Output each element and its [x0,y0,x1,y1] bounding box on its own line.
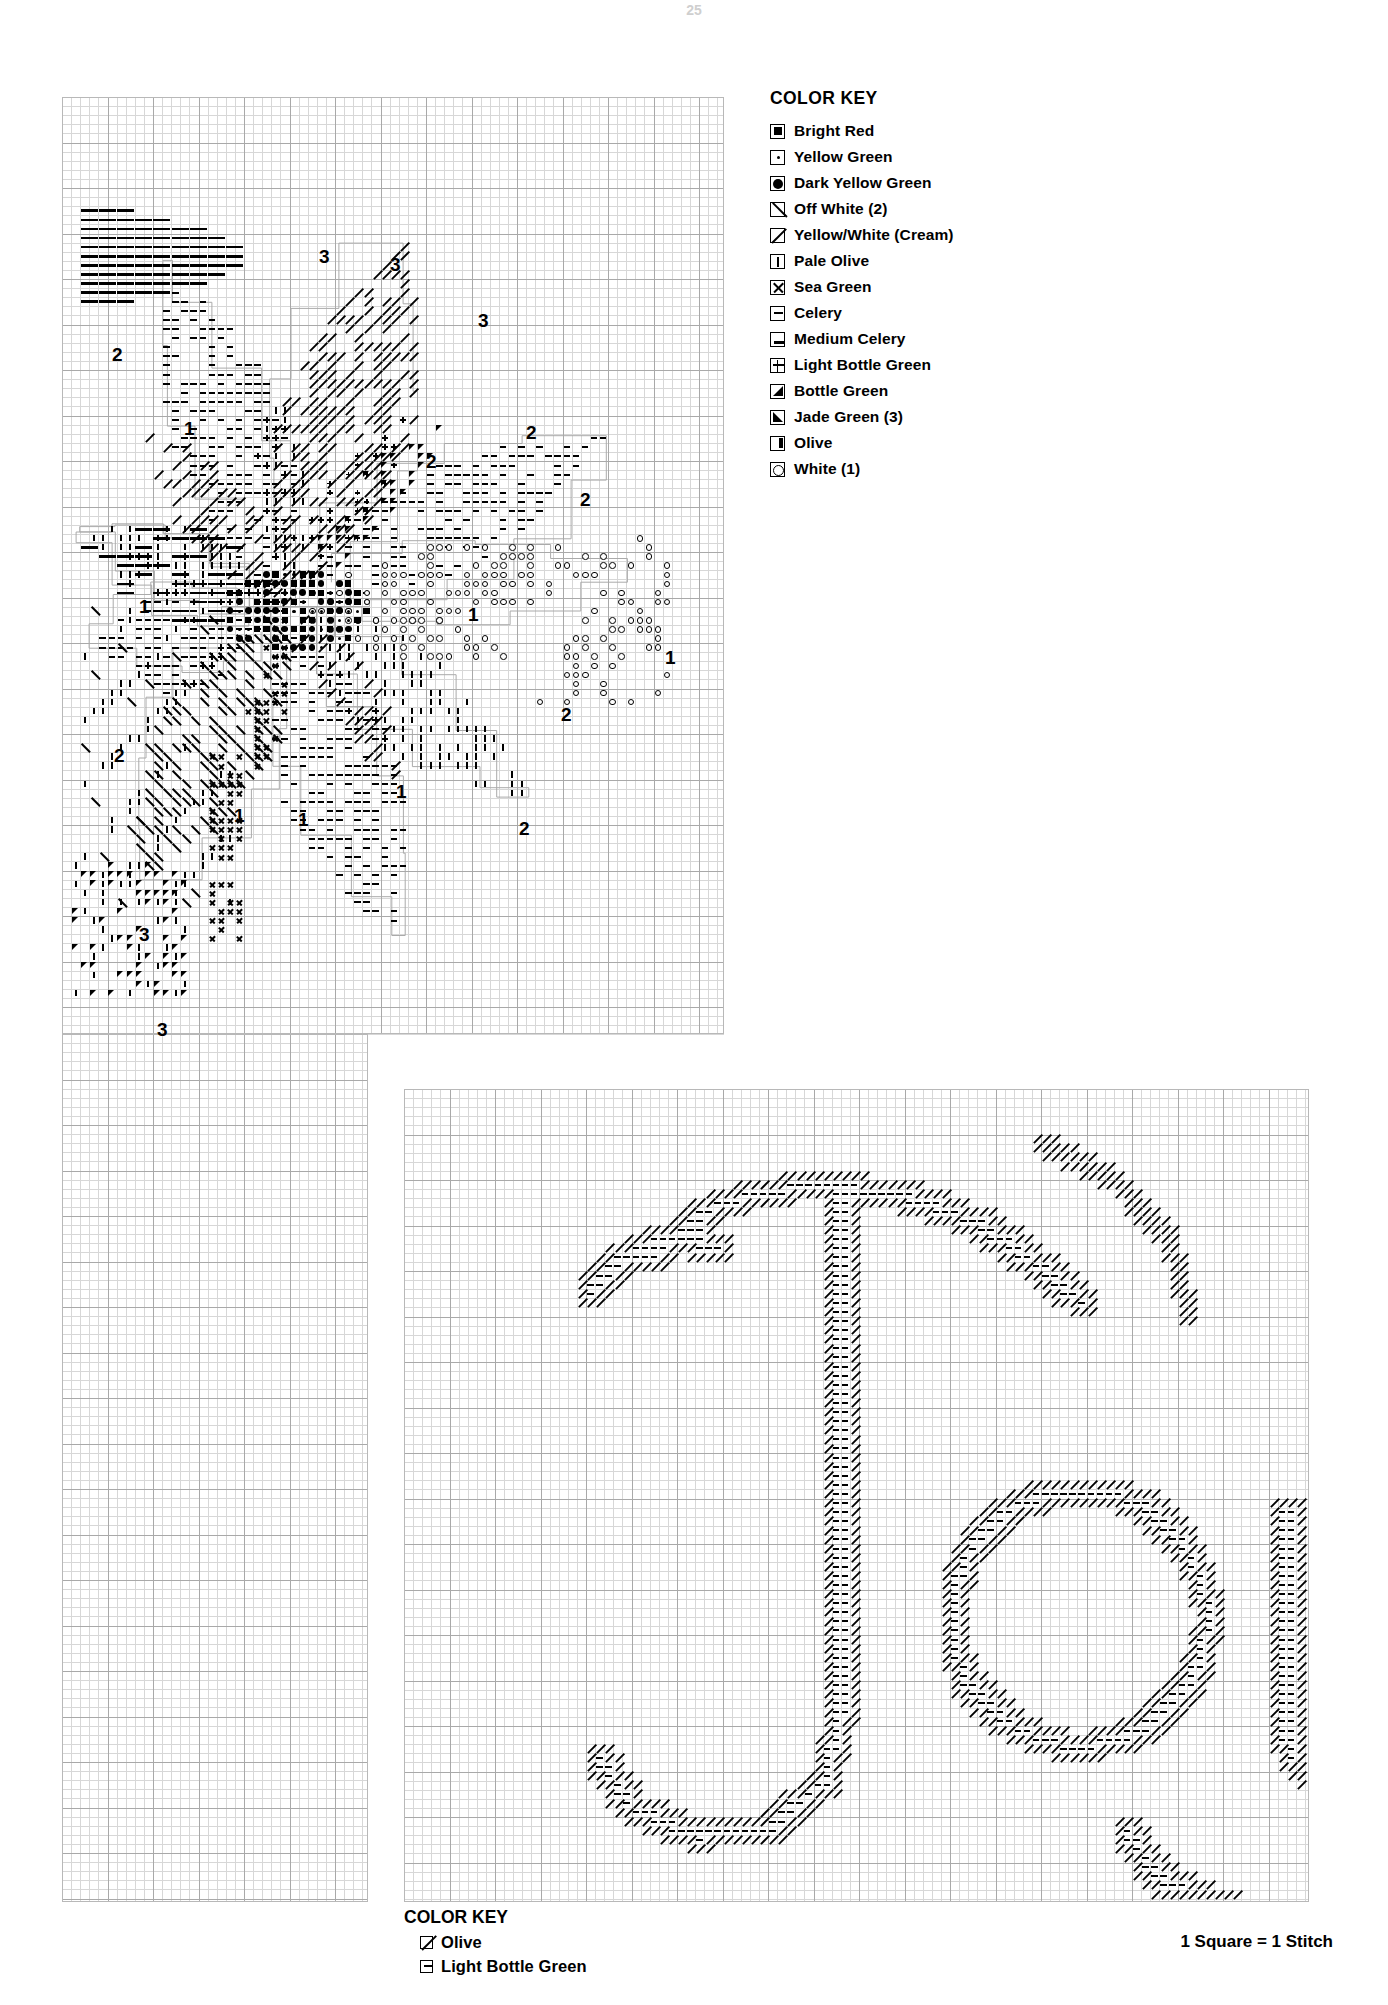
lettering-grid [404,1089,1309,1902]
bottom-color-key-row: Light Bottle Green [404,1954,874,1978]
filled-circle-in-box-icon [770,176,785,191]
color-key-label: Celery [794,304,842,322]
color-key-row: Dark Yellow Green [770,170,1070,196]
color-key-row: Off White (2) [770,196,1070,222]
grid-border [62,1034,368,1902]
region-label: 3 [157,1020,168,1039]
bottom-color-key-label: Light Bottle Green [441,1957,587,1976]
region-label: 3 [390,255,401,274]
scale-note: 1 Square = 1 Stitch [1180,1932,1333,1952]
forwardslash-in-box-icon [770,228,785,243]
color-key-row: Olive [770,430,1070,456]
color-key-label: Sea Green [794,278,872,296]
right-bar-in-box-icon [770,436,785,451]
color-key-label: Dark Yellow Green [794,174,932,192]
color-key-label: Yellow Green [794,148,893,166]
x-in-box-icon [770,280,785,295]
bottom-color-key-row: Olive [404,1930,874,1954]
color-key-row: White (1) [770,456,1070,482]
bottom-color-key-panel: COLOR KEY OliveLight Bottle Green [404,1907,874,1978]
page-number: 25 [686,2,702,18]
region-label: 1 [234,806,245,825]
triangle-lower-right-icon [770,410,785,425]
region-label: 2 [114,746,125,765]
plus-in-box-icon [770,358,785,373]
bottom-color-key-title: COLOR KEY [404,1907,874,1928]
minus-in-box-icon [420,1960,433,1973]
forwardslash-in-box-icon [420,1936,433,1949]
color-key-row: Sea Green [770,274,1070,300]
triangle-lower-left-icon [770,384,785,399]
color-key-row: Bright Red [770,118,1070,144]
bottom-color-key-label: Olive [441,1933,482,1952]
region-label: 1 [184,419,195,438]
region-label: 2 [526,423,537,442]
filled-square-in-box-icon [770,124,785,139]
dot-in-box-icon [770,150,785,165]
color-key-label: Bright Red [794,122,874,140]
grid-border [404,1089,1309,1902]
region-label: 2 [426,452,437,471]
region-label: 2 [112,345,123,364]
region-label: 3 [139,925,150,944]
minus-in-box-icon [770,306,785,321]
color-key-label: Bottle Green [794,382,888,400]
color-key-row: Medium Celery [770,326,1070,352]
motif-outlines [62,97,724,1034]
color-key-list: Bright RedYellow GreenDark Yellow GreenO… [770,118,1070,482]
color-key-panel: COLOR KEY Bright RedYellow GreenDark Yel… [770,88,1070,482]
i-bar-in-box-icon [770,254,785,269]
region-label: 1 [665,648,676,667]
color-key-label: Off White (2) [794,200,887,218]
backslash-in-box-icon [770,202,785,217]
open-circle-in-box-icon [770,462,785,477]
lower-left-grid [62,1034,368,1902]
region-label: 3 [478,311,489,330]
region-label: 2 [519,819,530,838]
region-label: 2 [580,490,591,509]
region-label: 1 [396,782,407,801]
color-key-row: Jade Green (3) [770,404,1070,430]
color-key-row: Bottle Green [770,378,1070,404]
color-key-row: Pale Olive [770,248,1070,274]
color-key-label: Light Bottle Green [794,356,931,374]
color-key-label: Medium Celery [794,330,906,348]
color-key-label: Yellow/White (Cream) [794,226,954,244]
bottom-bar-in-box-icon [770,332,785,347]
color-key-row: Celery [770,300,1070,326]
color-key-title: COLOR KEY [770,88,1070,109]
color-key-label: Jade Green (3) [794,408,903,426]
main-pattern-grid [62,97,724,1034]
color-key-label: Olive [794,434,832,452]
region-label: 1 [139,597,150,616]
color-key-label: Pale Olive [794,252,869,270]
region-label: 1 [468,605,479,624]
color-key-row: Yellow Green [770,144,1070,170]
region-label: 2 [561,705,572,724]
color-key-row: Light Bottle Green [770,352,1070,378]
region-label: 1 [298,810,309,829]
pattern-page: 25 2333122211122111233 COLOR KEY Bright … [0,0,1388,2005]
color-key-row: Yellow/White (Cream) [770,222,1070,248]
color-key-label: White (1) [794,460,860,478]
bottom-color-key-list: OliveLight Bottle Green [404,1930,874,1978]
region-label: 3 [319,247,330,266]
